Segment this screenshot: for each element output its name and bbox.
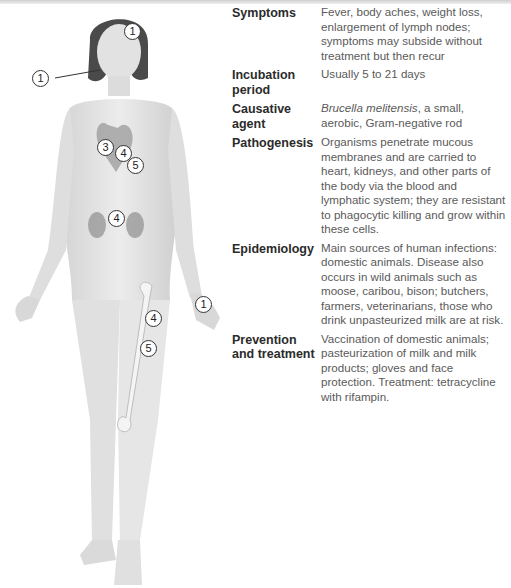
marker-femur-4: 4 [145,310,162,327]
term-description: Brucella melitensis, a small, aerobic, G… [318,101,507,131]
term-label: Pathogenesis [232,135,318,237]
body-diagram: 1 1 3 4 5 4 4 5 1 [0,0,240,588]
term-label: Causative agent [232,101,318,131]
marker-face: 1 [124,23,141,40]
term-description: Fever, body aches, weight loss, enlargem… [318,5,507,63]
marker-hand: 1 [195,296,212,313]
term-description: Usually 5 to 21 days [318,67,507,97]
row-symptoms: Symptoms Fever, body aches, weight loss,… [232,5,507,63]
disease-info-table: Symptoms Fever, body aches, weight loss,… [232,5,507,408]
row-incubation-period: Incubation period Usually 5 to 21 days [232,67,507,97]
term-label: Symptoms [232,5,318,63]
human-figure-illustration [0,0,240,588]
marker-heart-5: 5 [127,157,144,174]
row-causative-agent: Causative agent Brucella melitensis, a s… [232,101,507,131]
term-label: Incubation period [232,67,318,97]
marker-mouth: 1 [32,70,49,87]
term-description: Vaccination of domestic animals; pasteur… [318,332,507,405]
term-label: Prevention and treatment [232,332,318,405]
marker-heart-3: 3 [97,139,114,156]
row-pathogenesis: Pathogenesis Organisms penetrate mucous … [232,135,507,237]
term-label: Epidemiology [232,241,318,328]
organism-name: Brucella melitensis [321,101,418,114]
row-epidemiology: Epidemiology Main sources of human infec… [232,241,507,328]
marker-kidneys: 4 [108,210,125,227]
row-prevention-treatment: Prevention and treatment Vaccination of … [232,332,507,405]
term-description: Main sources of human infections: domest… [318,241,507,328]
marker-femur-5: 5 [140,340,157,357]
term-description: Organisms penetrate mucous membranes and… [318,135,507,237]
